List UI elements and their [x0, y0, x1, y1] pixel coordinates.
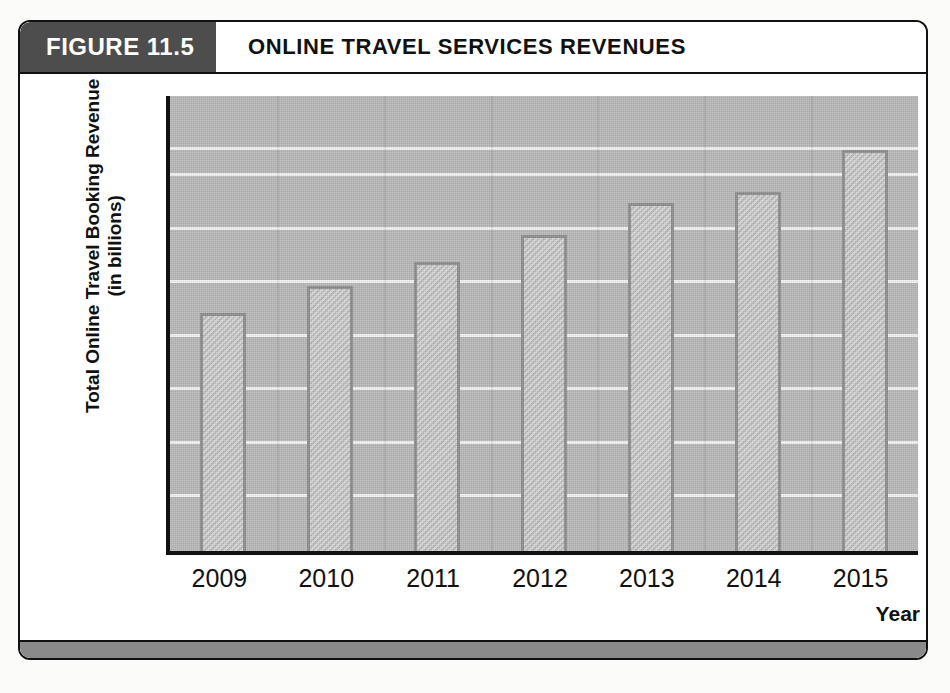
y-axis-title-line1: Total Online Travel Booking Revenue	[82, 79, 103, 413]
bar-2009	[200, 313, 246, 551]
figure-title: ONLINE TRAVEL SERVICES REVENUES	[216, 22, 926, 72]
category-separator	[597, 96, 599, 551]
x-tick-label-2010: 2010	[266, 564, 386, 593]
figure-page: FIGURE 11.5 ONLINE TRAVEL SERVICES REVEN…	[0, 0, 950, 693]
bar-2013	[628, 203, 674, 551]
bar-2010	[307, 286, 353, 551]
figure-bottom-rule	[20, 640, 926, 658]
x-axis-title: Year	[876, 602, 920, 626]
x-tick-label-2015: 2015	[801, 564, 921, 593]
y-axis-title: Total Online Travel Booking Revenue (in …	[82, 36, 126, 456]
category-separator	[277, 96, 279, 551]
plot-area	[166, 96, 918, 555]
bar-2015	[842, 150, 888, 551]
figure-number-tab: FIGURE 11.5	[20, 22, 216, 72]
x-tick-label-2012: 2012	[480, 564, 600, 593]
x-tick-label-2011: 2011	[373, 564, 493, 593]
figure-header: FIGURE 11.5 ONLINE TRAVEL SERVICES REVEN…	[20, 22, 926, 74]
figure-frame: FIGURE 11.5 ONLINE TRAVEL SERVICES REVEN…	[18, 20, 928, 660]
x-tick-label-2013: 2013	[587, 564, 707, 593]
chart-body: Total Online Travel Booking Revenue (in …	[20, 74, 926, 658]
gridline-120	[170, 227, 918, 230]
category-separator	[811, 96, 813, 551]
x-tick-label-2014: 2014	[694, 564, 814, 593]
category-separator	[384, 96, 386, 551]
bar-2014	[735, 192, 781, 551]
category-separator	[491, 96, 493, 551]
bar-2012	[521, 235, 567, 551]
bar-2011	[414, 262, 460, 551]
x-tick-label-2009: 2009	[159, 564, 279, 593]
y-axis-title-line2: (in billions)	[104, 36, 126, 456]
gridline-150	[170, 147, 918, 150]
gridline-140	[170, 173, 918, 176]
category-separator	[704, 96, 706, 551]
